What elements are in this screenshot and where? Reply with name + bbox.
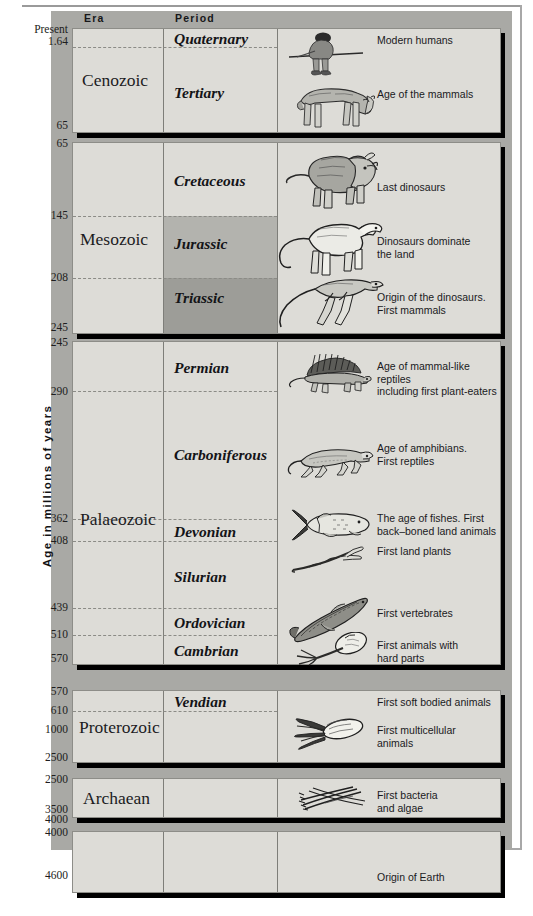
event-multicellular: First multicellular animals (377, 724, 456, 749)
geological-time-scale-figure: Era Period Age in millions of years Ceno… (0, 0, 533, 916)
divider-period-fossil (277, 779, 278, 817)
tick-4000-a: 4000 (22, 813, 68, 825)
event-land-plants: First land plants (377, 545, 451, 558)
divider-period-fossil (277, 342, 278, 664)
event-origin-of-earth: Origin of Earth (377, 871, 445, 884)
amphibian-icon (285, 437, 375, 479)
period-label-tertiary: Tertiary (174, 84, 224, 102)
tick-570-a: 570 (22, 652, 68, 664)
divider-period-fossil (277, 691, 278, 762)
tick-510: 510 (22, 628, 68, 640)
period-label-quaternary: Quaternary (174, 30, 248, 48)
boundary-145 (73, 216, 277, 217)
tick-408: 408 (22, 534, 68, 546)
event-mammal-like-reptiles: Age of mammal-like reptiles including fi… (377, 360, 500, 398)
era-label-mesozoic: Mesozoic (80, 229, 148, 250)
mesozoic-shadow-bottom (77, 334, 505, 339)
tick-290: 290 (22, 385, 68, 397)
tick-245-b: 245 (22, 336, 68, 348)
tick-present: Present (22, 23, 68, 35)
period-label-permian: Permian (174, 359, 229, 377)
column-header-era: Era (84, 12, 105, 24)
divider-era-period (163, 29, 164, 132)
tick-4000-b: 4000 (22, 826, 68, 838)
column-header-period: Period (175, 12, 215, 24)
crinoid-icon (289, 632, 375, 666)
divider-period-fossil (277, 29, 278, 132)
era-label-palaeozoic: Palaeozoic (80, 509, 156, 530)
tick-610: 610 (22, 704, 68, 716)
era-block-archaean[interactable]: Archaean First bacteria and algae (72, 778, 501, 818)
period-label-triassic: Triassic (174, 289, 224, 307)
boundary-408 (73, 541, 277, 542)
tick-570-b: 570 (22, 685, 68, 697)
period-label-vendian: Vendian (174, 693, 227, 711)
earth-shadow-bottom (77, 893, 505, 898)
tick-245-a: 245 (22, 321, 68, 333)
tick-2500-a: 2500 (22, 751, 68, 763)
event-fishes: The age of fishes. First back–boned land… (377, 512, 496, 537)
event-amphibians: Age of amphibians. First reptiles (377, 442, 467, 467)
event-hard-parts: First animals with hard parts (377, 639, 458, 664)
era-block-origin-of-earth[interactable]: Origin of Earth (72, 831, 501, 893)
period-label-silurian: Silurian (174, 568, 227, 586)
era-block-mesozoic[interactable]: Mesozoic Cretaceous Jurassic Triassic La… (72, 142, 501, 334)
triceratops-icon (279, 146, 379, 211)
right-rule (520, 5, 522, 850)
event-dinos-dominate: Dinosaurs dominate the land (377, 235, 470, 260)
multicellular-fossil-icon (291, 713, 371, 753)
divider-period-fossil (277, 832, 278, 892)
tick-439: 439 (22, 601, 68, 613)
dimetrodon-icon (287, 351, 373, 395)
boundary-610 (73, 711, 277, 712)
early-human-icon (287, 31, 365, 79)
era-block-palaeozoic[interactable]: Palaeozoic Permian Carboniferous Devonia… (72, 341, 501, 665)
period-label-devonian: Devonian (174, 523, 236, 541)
event-age-mammals: Age of the mammals (377, 88, 473, 101)
event-origin-dinos: Origin of the dinosaurs. First mammals (377, 291, 486, 316)
divider-era-period (163, 691, 164, 762)
event-modern-humans: Modern humans (377, 34, 453, 47)
event-bacteria-algae: First bacteria and algae (377, 789, 438, 814)
bacteria-algae-icon (295, 783, 373, 815)
period-label-cambrian: Cambrian (174, 642, 239, 660)
axis-title: Age in millions of years (41, 376, 53, 596)
period-label-ordovician: Ordovician (174, 614, 245, 632)
tick-208: 208 (22, 271, 68, 283)
proterozoic-shadow-bottom (77, 763, 505, 768)
tick-1-64: 1.64 (22, 35, 68, 47)
tick-65-b: 65 (22, 137, 68, 149)
event-vertebrates: First vertebrates (377, 607, 453, 620)
era-label-archaean: Archaean (83, 788, 150, 809)
period-label-jurassic: Jurassic (174, 235, 227, 253)
era-label-proterozoic: Proterozoic (79, 717, 160, 738)
early-dinosaur-icon (273, 271, 385, 333)
cenozoic-shadow-bottom (77, 133, 505, 138)
top-rule (22, 5, 522, 7)
tick-65-a: 65 (22, 119, 68, 131)
era-block-proterozoic[interactable]: Proterozoic Vendian First soft bodied an… (72, 690, 501, 763)
period-label-carboniferous: Carboniferous (174, 446, 267, 464)
divider-era-period (163, 832, 164, 892)
land-plant-icon (289, 542, 371, 574)
divider-era-period (163, 779, 164, 817)
sauropod-icon (273, 211, 385, 279)
tick-362: 362 (22, 512, 68, 524)
era-block-cenozoic[interactable]: Cenozoic Quaternary Tertiary Modern huma… (72, 28, 501, 133)
boundary-439 (73, 608, 277, 609)
event-last-dinosaurs: Last dinosaurs (377, 181, 445, 194)
rhinoceros-icon (285, 81, 377, 133)
tick-1000: 1000 (22, 723, 68, 735)
divider-era-period (163, 143, 164, 333)
boundary-290 (73, 391, 277, 392)
tick-2500-b: 2500 (22, 773, 68, 785)
tick-145: 145 (22, 209, 68, 221)
boundary-208 (73, 278, 277, 279)
tick-4600: 4600 (22, 869, 68, 881)
era-label-cenozoic: Cenozoic (82, 70, 148, 91)
event-soft-bodied: First soft bodied animals (377, 696, 491, 709)
archaean-shadow-bottom (77, 818, 505, 823)
period-label-cretaceous: Cretaceous (174, 172, 245, 190)
boundary-510 (73, 635, 277, 636)
fish-icon (287, 507, 373, 543)
